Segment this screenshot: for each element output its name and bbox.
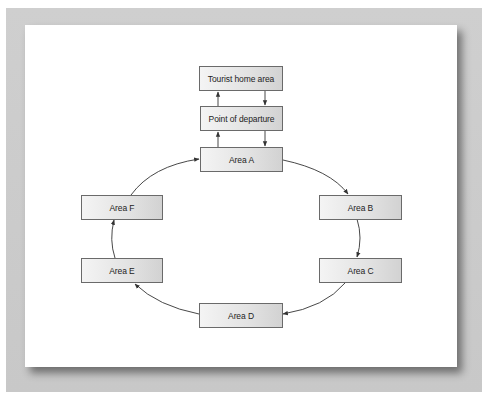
node-label: Area F xyxy=(110,203,135,213)
node-label: Area C xyxy=(348,266,374,276)
node-area-f: Area F xyxy=(81,195,163,220)
node-area-c: Area C xyxy=(319,258,402,283)
node-label: Area E xyxy=(109,266,134,276)
node-area-b: Area B xyxy=(319,195,402,220)
node-label: Area A xyxy=(229,155,254,165)
node-area-e: Area E xyxy=(81,258,163,283)
node-area-a: Area A xyxy=(200,147,283,172)
node-label: Area D xyxy=(228,311,254,321)
node-area-d: Area D xyxy=(199,303,283,328)
node-label: Point of departure xyxy=(209,114,275,124)
node-tourist-home-area: Tourist home area xyxy=(199,66,283,91)
node-label: Tourist home area xyxy=(208,74,274,84)
node-point-of-departure: Point of departure xyxy=(200,106,283,131)
node-label: Area B xyxy=(348,203,373,213)
